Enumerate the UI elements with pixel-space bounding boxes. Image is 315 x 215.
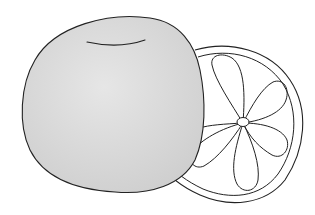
citrus-illustration <box>0 0 315 215</box>
whole-fruit <box>22 17 204 193</box>
